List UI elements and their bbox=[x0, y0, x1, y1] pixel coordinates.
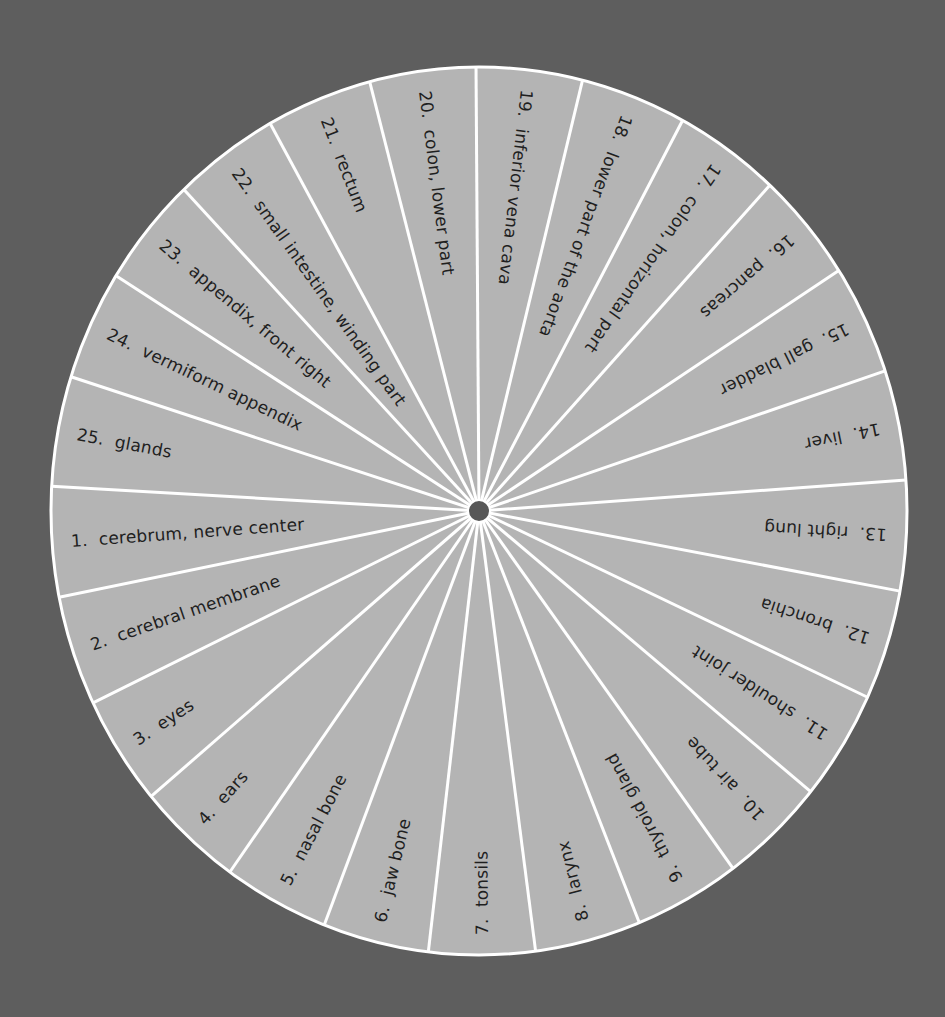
segment-number: 20. bbox=[415, 89, 438, 119]
segment-text: tonsils bbox=[471, 851, 491, 908]
center-hub-dot bbox=[468, 500, 490, 522]
segment-number: 13. bbox=[859, 523, 888, 545]
segment-label-7: 7. tonsils bbox=[471, 851, 492, 935]
segment-number: 19. bbox=[514, 89, 537, 119]
segment-number: 7. bbox=[472, 918, 492, 935]
segment-number: 1. bbox=[71, 529, 89, 550]
organ-wheel-diagram: 1. cerebrum, nerve center 2. cerebral me… bbox=[0, 0, 945, 1017]
